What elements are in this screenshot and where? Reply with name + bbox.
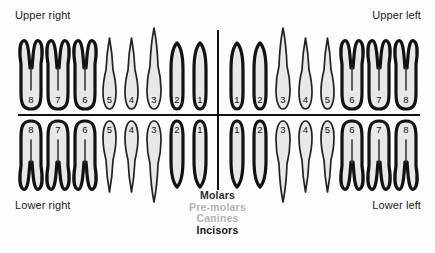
tooth-incisor-1[interactable]: 1 (226, 40, 248, 112)
tooth-shape-icon (295, 36, 316, 112)
tooth-shape-icon (393, 38, 419, 112)
tooth-pre-molar-5[interactable]: 5 (317, 36, 338, 112)
tooth-pre-molar-5[interactable]: 5 (99, 36, 120, 112)
tooth-shape-icon (121, 36, 142, 112)
tooth-shape-icon (72, 118, 98, 192)
tooth-shape-icon (366, 38, 392, 112)
tooth-shape-icon (226, 40, 248, 112)
tooth-molar-6[interactable]: 6 (72, 38, 98, 112)
quadrant-label-upper-right: Upper right (15, 9, 71, 21)
tooth-molar-8[interactable]: 8 (393, 118, 419, 192)
tooth-shape-icon (272, 26, 294, 112)
tooth-incisor-2[interactable]: 2 (249, 40, 271, 112)
tooth-molar-8[interactable]: 8 (18, 118, 44, 192)
tooth-row-upper-left: 12345678 (226, 30, 420, 112)
tooth-shape-icon (72, 38, 98, 112)
legend-item-molars: Molars (0, 190, 435, 202)
tooth-shape-icon (317, 118, 338, 194)
legend-item-incisors: Incisors (0, 225, 435, 237)
tooth-incisor-2[interactable]: 2 (166, 40, 188, 112)
tooth-molar-6[interactable]: 6 (72, 118, 98, 192)
tooth-molar-8[interactable]: 8 (18, 38, 44, 112)
legend-item-canines: Canines (0, 213, 435, 225)
quadrant-label-upper-left: Upper left (372, 9, 421, 21)
tooth-molar-7[interactable]: 7 (45, 118, 71, 192)
tooth-incisor-1[interactable]: 1 (189, 40, 211, 112)
tooth-incisor-2[interactable]: 2 (166, 118, 188, 190)
tooth-shape-icon (166, 118, 188, 190)
tooth-shape-icon (45, 118, 71, 192)
tooth-shape-icon (121, 118, 142, 194)
tooth-shape-icon (249, 118, 271, 190)
tooth-row-lower-left: 12345678 (226, 118, 420, 200)
tooth-canine-3[interactable]: 3 (272, 26, 294, 112)
tooth-row-upper-right: 87654321 (18, 30, 212, 112)
tooth-shape-icon (18, 118, 44, 192)
tooth-molar-6[interactable]: 6 (339, 118, 365, 192)
tooth-shape-icon (99, 118, 120, 194)
tooth-molar-7[interactable]: 7 (366, 38, 392, 112)
tooth-canine-3[interactable]: 3 (143, 26, 165, 112)
tooth-row-lower-right: 87654321 (18, 118, 212, 200)
tooth-pre-molar-5[interactable]: 5 (99, 118, 120, 194)
tooth-incisor-1[interactable]: 1 (226, 118, 248, 190)
tooth-shape-icon (339, 38, 365, 112)
legend: MolarsPre-molarsCaninesIncisors (0, 190, 435, 236)
tooth-shape-icon (18, 38, 44, 112)
tooth-pre-molar-4[interactable]: 4 (121, 36, 142, 112)
tooth-pre-molar-4[interactable]: 4 (295, 36, 316, 112)
tooth-shape-icon (143, 26, 165, 112)
tooth-shape-icon (189, 40, 211, 112)
tooth-shape-icon (166, 40, 188, 112)
tooth-incisor-1[interactable]: 1 (189, 118, 211, 190)
tooth-molar-6[interactable]: 6 (339, 38, 365, 112)
midline-divider-vertical (217, 30, 219, 190)
tooth-shape-icon (99, 36, 120, 112)
tooth-shape-icon (393, 118, 419, 192)
tooth-pre-molar-4[interactable]: 4 (295, 118, 316, 194)
tooth-pre-molar-5[interactable]: 5 (317, 118, 338, 194)
tooth-shape-icon (226, 118, 248, 190)
tooth-shape-icon (189, 118, 211, 190)
tooth-molar-8[interactable]: 8 (393, 38, 419, 112)
tooth-shape-icon (317, 36, 338, 112)
tooth-pre-molar-4[interactable]: 4 (121, 118, 142, 194)
tooth-incisor-2[interactable]: 2 (249, 118, 271, 190)
midline-divider-horizontal (18, 114, 420, 116)
tooth-molar-7[interactable]: 7 (45, 38, 71, 112)
tooth-shape-icon (366, 118, 392, 192)
tooth-shape-icon (45, 38, 71, 112)
tooth-molar-7[interactable]: 7 (366, 118, 392, 192)
tooth-shape-icon (339, 118, 365, 192)
dental-quadrant-chart: Upper right Upper left Lower right Lower… (0, 0, 435, 253)
tooth-shape-icon (295, 118, 316, 194)
tooth-shape-icon (249, 40, 271, 112)
